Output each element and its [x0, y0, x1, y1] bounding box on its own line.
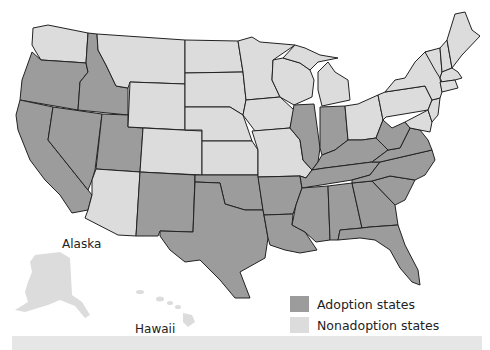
map-legend: Adoption states Nonadoption states: [290, 294, 439, 336]
legend-label: Nonadoption states: [317, 318, 439, 333]
state-connecticut-rhode-island: [440, 80, 458, 92]
state-north-dakota: [185, 40, 243, 73]
alaska-label: Alaska: [62, 237, 101, 251]
state-florida: [338, 225, 420, 285]
legend-label: Adoption states: [317, 297, 415, 312]
state-maine: [447, 12, 480, 68]
state-iowa: [243, 97, 294, 131]
nonadoption-swatch: [290, 317, 309, 333]
state-kansas: [202, 141, 258, 175]
legend-item-nonadoption: Nonadoption states: [290, 315, 439, 335]
state-ohio: [345, 95, 383, 140]
adoption-swatch: [290, 296, 309, 312]
legend-item-adoption: Adoption states: [290, 294, 439, 314]
state-colorado: [140, 128, 202, 175]
state-alaska: [15, 252, 90, 318]
state-new-mexico: [136, 172, 195, 236]
state-wyoming: [128, 82, 185, 130]
hawaii-label: Hawaii: [135, 322, 175, 336]
state-washington: [32, 25, 88, 63]
bottom-rule: [12, 336, 482, 350]
state-arizona: [85, 169, 140, 236]
